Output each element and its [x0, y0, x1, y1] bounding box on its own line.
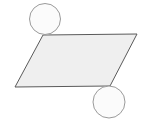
figure-canvas	[0, 0, 145, 124]
circle-bottom-right-shape	[93, 86, 125, 118]
geometry-figure	[0, 0, 145, 124]
circle-top-left-shape	[30, 4, 61, 35]
